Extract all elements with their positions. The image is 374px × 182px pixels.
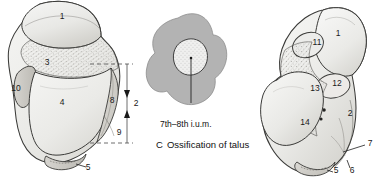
- talus-superior-view-drawing: [0, 0, 130, 182]
- age-caption: 7th–8th i.u.m.: [160, 120, 212, 129]
- ossification-diagram-drawing: [130, 0, 260, 182]
- caption-text: Ossification of talus: [167, 139, 249, 150]
- figure-caption: COssification of talus: [156, 140, 249, 150]
- trochlear-surface-group: [22, 1, 101, 48]
- left-bone-panel: 1 3 10 4: [0, 0, 130, 182]
- caption-letter: C: [156, 139, 163, 150]
- leader-line-6: [347, 160, 350, 168]
- right-bone-panel: [255, 0, 374, 182]
- trochlea-tali: [22, 1, 101, 48]
- body-facet-group: [29, 68, 112, 155]
- talus-inferior-view-drawing: [255, 0, 374, 182]
- talus-ossification-figure: 1 3 10 4 8 9 5 2: [0, 0, 374, 182]
- middle-ossification-panel: [130, 0, 260, 182]
- body-articular-facet: [29, 68, 112, 155]
